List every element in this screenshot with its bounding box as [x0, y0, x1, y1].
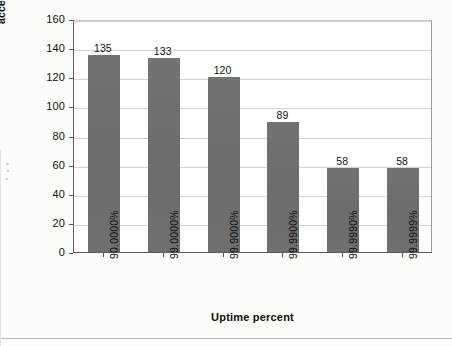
bar-value-label: 58: [322, 155, 362, 167]
scanned-page: Number of services acceding uptime perce…: [0, 0, 452, 346]
y-axis-tick-label: 100: [29, 100, 65, 112]
gridline: [74, 108, 431, 109]
gridline: [74, 50, 431, 51]
bar-chart: Number of services acceding uptime perce…: [0, 0, 452, 346]
gridline: [74, 225, 431, 226]
y-axis-tick-label: 160: [29, 13, 65, 25]
x-axis-tick-mark: [163, 253, 164, 257]
x-axis-tick-label: 99.9000%: [228, 210, 240, 259]
x-axis-tick-mark: [402, 253, 403, 257]
x-axis-tick-mark: [282, 253, 283, 257]
y-axis-tick-label: 120: [29, 71, 65, 83]
plot-area: [73, 20, 432, 253]
y-axis-title-line2: acceding uptime percent: [0, 0, 7, 56]
bar-value-label: 58: [382, 155, 422, 167]
x-axis-tick-mark: [103, 253, 104, 257]
x-axis-tick-label: 99.0000%: [168, 210, 180, 259]
y-axis-title: Number of services acceding uptime perce…: [0, 0, 7, 56]
y-axis-tick-label: 0: [29, 246, 65, 258]
y-axis-tick-label: 40: [29, 188, 65, 200]
gridline: [74, 21, 431, 22]
x-axis-tick-label: 90.0000%: [108, 210, 120, 259]
gridline: [74, 79, 431, 80]
gridline: [74, 196, 431, 197]
bar-value-label: 135: [83, 42, 123, 54]
x-axis-tick-mark: [342, 253, 343, 257]
y-axis-tick-label: 20: [29, 217, 65, 229]
bar-value-label: 120: [203, 64, 243, 76]
y-axis-tick-label: 60: [29, 159, 65, 171]
y-axis-tick-label: 140: [29, 42, 65, 54]
x-axis-tick-label: 99.9990%: [347, 210, 359, 259]
gridline: [74, 138, 431, 139]
x-axis-tick-label: 99.9900%: [287, 210, 299, 259]
x-axis-tick-label: 99.9999%: [407, 210, 419, 259]
gridline: [74, 167, 431, 168]
x-axis-title: Uptime percent: [73, 311, 432, 323]
y-axis-tick-label: 80: [29, 130, 65, 142]
bar-value-label: 89: [262, 109, 302, 121]
bar-value-label: 133: [143, 45, 183, 57]
y-axis-tick-mark: [69, 253, 73, 254]
x-axis-tick-mark: [223, 253, 224, 257]
